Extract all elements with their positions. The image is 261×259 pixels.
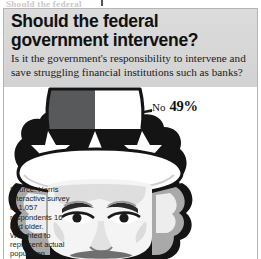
subtitle: Is it the government's responsibility to… <box>11 52 254 79</box>
cropped-top-text: Should the federal <box>0 0 261 7</box>
hat-crown <box>47 89 143 129</box>
top-tick-mark <box>101 0 103 6</box>
hair-right <box>150 183 192 259</box>
infographic-root: Should the federal Should the federal go… <box>0 0 261 259</box>
hat-crown-yes <box>47 89 95 129</box>
infographic-panel: Should the federal government intervene?… <box>3 8 258 259</box>
hat-crown-no <box>95 89 143 129</box>
source-note: Source: Harris Interactive survey of 1,0… <box>10 185 76 259</box>
page-title: Should the federal government intervene? <box>11 12 241 50</box>
